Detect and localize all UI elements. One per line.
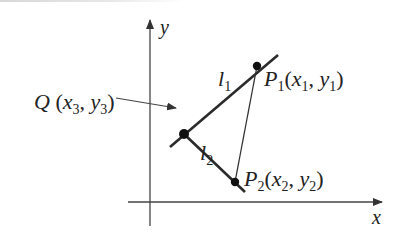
p2-label: P2(x2, y2) — [243, 166, 324, 194]
line-l2-label: l2 — [200, 140, 213, 168]
line-l1-label: l1 — [218, 66, 231, 94]
q-label: Q (x3, y3) — [34, 89, 115, 117]
diagram-canvas: y x Q (x3, y3) l1 l2 P1(x1, y1) P2(x2, y… — [0, 0, 393, 239]
y-axis-label: y — [158, 16, 169, 39]
point-p2 — [231, 178, 239, 186]
q-pointer-arrow — [116, 98, 176, 108]
point-p1 — [253, 62, 261, 70]
p1-label: P1(x1, y1) — [263, 66, 344, 94]
point-q — [179, 129, 189, 139]
x-axis-label: x — [371, 206, 381, 228]
